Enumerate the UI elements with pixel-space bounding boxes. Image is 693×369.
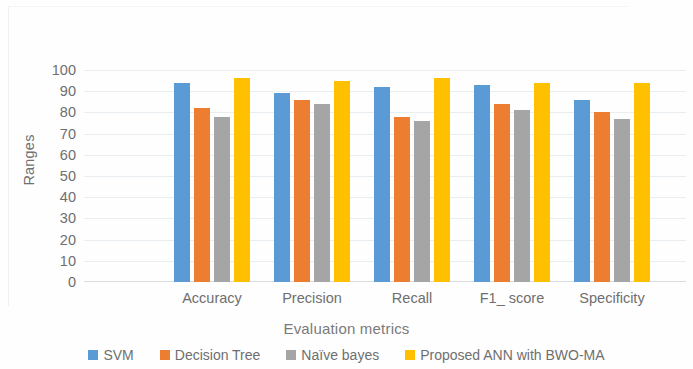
x-axis-labels: AccuracyPrecisionRecallF1_ scoreSpecific… (84, 290, 686, 312)
x-axis-tick-label: Specificity (579, 290, 644, 306)
legend-label: Proposed ANN with BWO-MA (420, 347, 604, 363)
x-axis-tick-label: F1_ score (480, 290, 544, 306)
y-axis-tick-label: 40 (36, 189, 76, 205)
chart-legend: SVMDecision TreeNaïve bayesProposed ANN … (0, 347, 693, 363)
bar (394, 117, 410, 282)
legend-item[interactable]: SVM (88, 347, 133, 363)
bar-group (574, 70, 650, 282)
legend-item[interactable]: Decision Tree (160, 347, 261, 363)
y-axis-tick-label: 90 (36, 83, 76, 99)
bar (594, 112, 610, 282)
x-axis-title: Evaluation metrics (0, 320, 693, 337)
legend-swatch-icon (286, 350, 296, 360)
legend-label: SVM (103, 347, 133, 363)
y-axis-tick-label: 60 (36, 147, 76, 163)
bar (374, 87, 390, 282)
bar-group (474, 70, 550, 282)
y-axis-tick-label: 10 (36, 253, 76, 269)
x-axis-tick-label: Recall (392, 290, 432, 306)
legend-item[interactable]: Proposed ANN with BWO-MA (405, 347, 604, 363)
y-axis-tick-label: 80 (36, 104, 76, 120)
plot-area (84, 70, 686, 282)
y-axis-title: Ranges (21, 115, 37, 205)
legend-label: Decision Tree (175, 347, 261, 363)
bar (474, 85, 490, 282)
bar (294, 100, 310, 282)
scan-edge-left (8, 6, 9, 306)
bar (414, 121, 430, 282)
legend-item[interactable]: Naïve bayes (286, 347, 379, 363)
x-axis-tick-label: Precision (282, 290, 342, 306)
y-axis-ticks: 1009080706050403020100 (36, 62, 76, 290)
bar (494, 104, 510, 282)
bar (314, 104, 330, 282)
bar (174, 83, 190, 282)
scan-edge-top (8, 6, 628, 7)
bar (614, 119, 630, 282)
bar (574, 100, 590, 282)
y-axis-tick-label: 70 (36, 126, 76, 142)
y-axis-tick-label: 30 (36, 210, 76, 226)
bar (214, 117, 230, 282)
bar (634, 83, 650, 282)
bar-chart: Ranges 1009080706050403020100 AccuracyPr… (0, 0, 693, 369)
bar (234, 78, 250, 282)
bar (334, 81, 350, 282)
y-axis-tick-label: 0 (36, 274, 76, 290)
bar-group (374, 70, 450, 282)
y-axis-tick-label: 20 (36, 232, 76, 248)
legend-swatch-icon (88, 350, 98, 360)
legend-label: Naïve bayes (301, 347, 379, 363)
x-axis-tick-label: Accuracy (182, 290, 242, 306)
bar-group (174, 70, 250, 282)
bar (194, 108, 210, 282)
bar (274, 93, 290, 282)
bar-group (274, 70, 350, 282)
bar (534, 83, 550, 282)
legend-swatch-icon (160, 350, 170, 360)
legend-swatch-icon (405, 350, 415, 360)
bar (434, 78, 450, 282)
y-axis-tick-label: 50 (36, 168, 76, 184)
y-axis-tick-label: 100 (36, 62, 76, 78)
bar (514, 110, 530, 282)
